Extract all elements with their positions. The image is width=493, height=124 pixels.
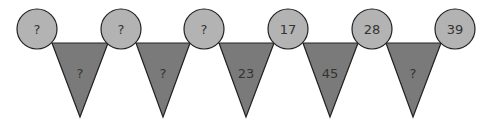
circle-2: ? xyxy=(101,9,141,49)
triangle-4: 45 xyxy=(303,43,358,117)
circle-4-label: 17 xyxy=(280,22,297,37)
circle-4: 17 xyxy=(268,9,308,49)
circle-3-label: ? xyxy=(201,22,208,37)
triangle-3: 23 xyxy=(219,43,274,117)
number-puzzle-diagram: ? ? 23 45 ? ? ? ? 17 28 39 xyxy=(0,0,493,124)
circle-3: ? xyxy=(184,9,224,49)
triangle-3-label: 23 xyxy=(238,66,255,81)
circle-5-label: 28 xyxy=(364,22,381,37)
triangle-5-label: ? xyxy=(410,66,417,81)
circle-6: 39 xyxy=(435,9,475,49)
circle-1: ? xyxy=(17,9,57,49)
circle-6-label: 39 xyxy=(447,22,464,37)
triangle-2: ? xyxy=(136,43,190,117)
circle-1-label: ? xyxy=(34,22,41,37)
triangle-1-label: ? xyxy=(77,66,84,81)
triangle-2-label: ? xyxy=(160,66,167,81)
circle-5: 28 xyxy=(352,9,392,49)
triangle-1: ? xyxy=(52,43,108,117)
triangle-5: ? xyxy=(386,43,441,117)
circle-2-label: ? xyxy=(118,22,125,37)
triangle-4-label: 45 xyxy=(322,66,339,81)
